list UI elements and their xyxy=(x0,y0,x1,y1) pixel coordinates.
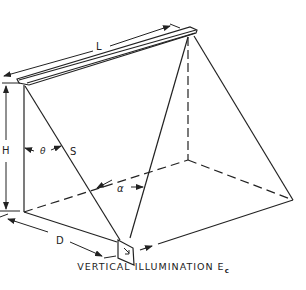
right-line-to-corner xyxy=(194,36,293,200)
caption-subscript: c xyxy=(225,267,229,275)
target-right-arrow xyxy=(140,246,152,250)
floor-right-front xyxy=(158,200,293,244)
label-d: D xyxy=(56,235,64,246)
label-s: S xyxy=(70,146,76,157)
luminaire-bar xyxy=(17,27,197,85)
label-theta: θ xyxy=(40,146,46,156)
caption-text: VERTICAL ILLUMINATION E xyxy=(77,261,224,272)
label-height: H xyxy=(2,145,10,156)
label-length: L xyxy=(96,41,102,52)
figure-caption: VERTICAL ILLUMINATION Ec xyxy=(0,261,306,275)
label-alpha: α xyxy=(117,183,124,194)
illumination-diagram: L H θ S α D VERTICAL ILLUMINATION Ec xyxy=(0,0,306,290)
length-dimension xyxy=(4,24,180,76)
right-line-to-target xyxy=(130,37,188,238)
floor-back-dashed xyxy=(24,160,188,212)
floor-front-line xyxy=(24,212,117,242)
floor-right-dashed xyxy=(188,160,293,200)
diagram-drawing: L H θ S α D xyxy=(0,0,306,290)
